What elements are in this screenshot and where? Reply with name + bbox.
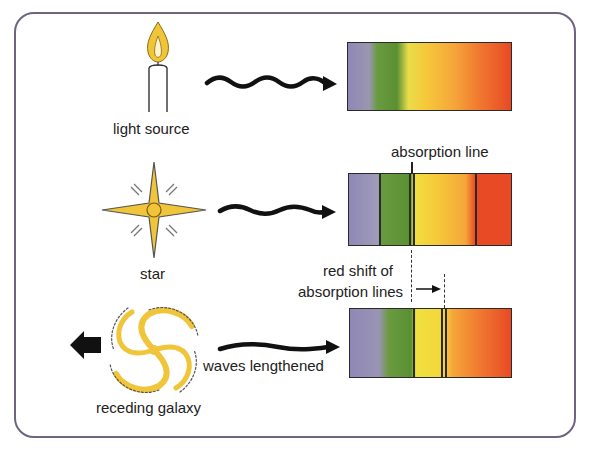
spectrum-galaxy	[349, 308, 512, 378]
star-label: star	[140, 265, 165, 282]
band-divider	[413, 309, 415, 377]
band-divider	[379, 174, 381, 245]
spectrum-star	[348, 173, 512, 246]
absorption-line-label: absorption line	[391, 143, 489, 160]
galaxy-icon	[104, 300, 204, 400]
right-arrow-icon	[416, 284, 442, 294]
red-shift-label-1: red shift of	[323, 262, 393, 279]
spectrum-continuous	[347, 42, 512, 111]
dashed-guide	[411, 250, 412, 302]
wavy-arrow-icon	[205, 68, 340, 98]
candle-icon	[138, 20, 178, 115]
receding-galaxy-label: receding galaxy	[96, 399, 201, 416]
absorption-line	[445, 309, 447, 377]
waves-lengthened-label: waves lengthened	[203, 357, 324, 374]
left-arrow-icon	[70, 330, 102, 360]
absorption-line	[409, 174, 411, 245]
dashed-guide	[444, 274, 445, 308]
wavy-arrow-icon	[218, 335, 343, 359]
wavy-arrow-icon	[218, 196, 338, 226]
red-shift-label-2: absorption lines	[298, 283, 403, 300]
absorption-line	[413, 174, 415, 245]
band-divider	[475, 174, 477, 245]
star-icon	[98, 160, 210, 260]
absorption-line	[441, 309, 443, 377]
light-source-label: light source	[113, 120, 190, 137]
